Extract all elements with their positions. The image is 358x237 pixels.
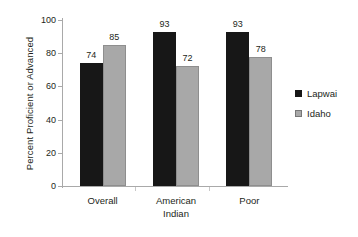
bar-value-label: 93 <box>233 19 243 29</box>
x-tick-mark <box>135 187 136 191</box>
y-tick-label: 80 <box>16 48 56 58</box>
y-tick-label: 60 <box>16 81 56 91</box>
bar <box>103 45 126 186</box>
y-tick-mark <box>58 120 62 121</box>
y-tick-mark <box>58 186 62 187</box>
bar-value-label: 93 <box>159 19 169 29</box>
y-tick-mark <box>58 153 62 154</box>
bar-value-label: 85 <box>109 32 119 42</box>
bar-value-label: 72 <box>182 53 192 63</box>
legend: LapwaiIdaho <box>295 88 337 128</box>
bar <box>176 66 199 186</box>
bar-value-label: 78 <box>256 44 266 54</box>
bar <box>153 32 176 186</box>
legend-item[interactable]: Idaho <box>295 108 337 119</box>
legend-swatch-icon <box>295 110 302 117</box>
y-tick-label: 40 <box>16 115 56 125</box>
y-tick-label: 20 <box>16 148 56 158</box>
y-tick-label: 100 <box>16 15 56 25</box>
bar <box>249 57 272 186</box>
bar-chart: Percent Proficient or Advanced 020406080… <box>0 0 358 237</box>
y-tick-mark <box>58 53 62 54</box>
y-axis-line <box>62 18 63 188</box>
bar <box>80 63 103 186</box>
x-category-label: Poor <box>239 194 259 207</box>
bar <box>226 32 249 186</box>
legend-swatch-icon <box>295 90 302 97</box>
x-axis-line <box>62 186 288 187</box>
x-category-label: Overall <box>88 194 118 207</box>
plot-area: 020406080100 749393857278 <box>62 20 282 186</box>
x-tick-mark <box>209 187 210 191</box>
bar-value-label: 74 <box>86 50 96 60</box>
y-tick-mark <box>58 20 62 21</box>
y-tick-label: 0 <box>16 181 56 191</box>
legend-label: Idaho <box>307 108 331 119</box>
y-tick-mark <box>58 86 62 87</box>
legend-label: Lapwai <box>307 88 337 99</box>
y-axis-title: Percent Proficient or Advanced <box>24 9 35 199</box>
x-category-label: American Indian <box>156 194 196 220</box>
legend-item[interactable]: Lapwai <box>295 88 337 99</box>
